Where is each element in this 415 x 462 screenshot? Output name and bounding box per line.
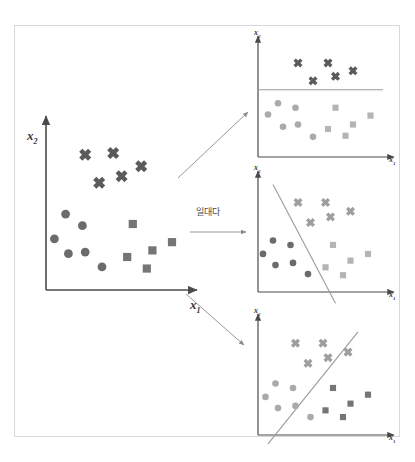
point-square-2 [350,121,356,127]
point-circle-2 [262,394,269,401]
point-circle-1 [290,385,297,392]
point-circle-4 [290,260,297,267]
point-square-1 [365,392,371,398]
arrow-to-top [178,112,248,178]
point-square-1 [367,112,373,118]
point-square-2 [148,246,156,254]
point-square-0 [129,220,137,228]
y-axis-label-panel-bottom: x2 [254,306,260,317]
point-cross-0 [76,146,94,164]
point-square-1 [365,251,371,257]
point-circle-5 [305,271,312,278]
panel-panel-bottom [258,314,394,444]
point-cross-1 [104,144,122,162]
point-circle-4 [81,248,90,257]
point-square-2 [347,401,353,407]
point-circle-0 [275,100,282,107]
series-circle-panel-top [265,100,317,140]
point-cross-1 [321,56,334,69]
series-square-main [123,220,176,273]
x-axis-label-panel-top: x1 [389,155,395,166]
y-axis-label-panel-middle: x2 [254,163,260,174]
point-cross-2 [341,345,354,358]
series-square-panel-middle [322,242,371,278]
point-square-0 [330,385,336,391]
series-cross-panel-top [291,56,359,87]
point-circle-1 [78,221,87,230]
point-circle-2 [50,234,59,243]
point-square-4 [340,414,346,420]
point-circle-4 [292,403,299,410]
point-cross-0 [291,56,304,69]
point-square-4 [340,272,346,278]
point-cross-3 [304,216,317,229]
point-square-3 [322,407,328,413]
point-cross-0 [289,337,302,350]
point-cross-1 [319,196,332,209]
point-square-3 [325,126,331,132]
series-circle-panel-bottom [262,380,314,420]
decision-boundary-panel-bottom [268,332,358,444]
point-cross-2 [344,205,357,218]
point-circle-2 [260,251,267,258]
y-axis-label-panel-top: x2 [254,28,260,39]
point-circle-5 [310,134,317,141]
point-circle-2 [265,111,272,118]
point-cross-4 [321,351,334,364]
point-circle-5 [98,263,107,272]
point-cross-3 [90,174,108,192]
series-circle-main [50,210,106,272]
point-cross-4 [113,167,131,185]
point-circle-0 [61,210,70,219]
point-square-4 [342,133,348,139]
point-circle-3 [64,249,73,258]
point-square-4 [143,264,151,272]
point-cross-1 [316,337,329,350]
point-circle-3 [280,123,287,130]
x-axis-label-panel-middle: x1 [389,290,395,301]
point-circle-5 [307,414,314,421]
point-square-3 [322,264,328,270]
panel-main [46,116,197,290]
point-square-1 [168,238,176,246]
series-square-panel-bottom [322,385,371,420]
point-square-3 [123,253,131,261]
point-square-0 [332,105,338,111]
point-circle-3 [275,405,282,412]
y-axis-label-main: x2 [27,128,38,146]
point-cross-2 [132,157,150,175]
point-circle-0 [272,380,279,387]
point-cross-2 [346,64,359,77]
series-cross-panel-bottom [289,337,355,370]
point-circle-1 [292,104,299,111]
point-circle-0 [270,237,277,244]
point-cross-0 [291,196,304,209]
point-square-2 [347,258,353,264]
point-cross-4 [329,70,342,83]
point-circle-1 [287,242,294,249]
point-square-0 [330,242,336,248]
point-circle-3 [272,262,279,269]
point-circle-4 [295,121,302,128]
series-square-panel-top [325,105,374,139]
point-cross-3 [306,74,319,87]
figure-canvas [0,0,415,462]
series-cross-main [76,144,150,191]
x-axis-label-panel-bottom: x1 [389,433,395,444]
point-cross-4 [324,210,337,223]
panel-panel-middle [258,171,394,303]
panel-panel-top [258,36,394,157]
x-axis-label-main: x1 [190,297,201,315]
transform-label: 일대다 [196,205,220,218]
point-cross-3 [301,357,314,370]
series-cross-panel-middle [291,196,357,229]
